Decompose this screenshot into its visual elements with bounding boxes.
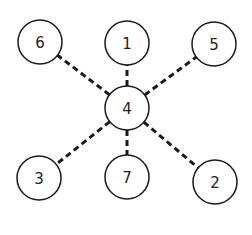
- node-2: 2: [193, 160, 237, 204]
- node-label: 6: [35, 34, 45, 52]
- graph-diagram: 1234567: [0, 0, 252, 235]
- node-3: 3: [17, 156, 61, 200]
- edge-4-6: [58, 55, 110, 94]
- edge-4-5: [145, 57, 197, 95]
- node-4: 4: [105, 86, 149, 130]
- node-label: 4: [122, 100, 132, 118]
- node-1: 1: [105, 21, 149, 65]
- node-7: 7: [105, 155, 149, 199]
- node-label: 3: [34, 170, 44, 188]
- edge-4-3: [56, 122, 110, 165]
- node-label: 1: [122, 35, 132, 53]
- node-6: 6: [18, 20, 62, 64]
- node-5: 5: [192, 22, 236, 66]
- node-label: 5: [209, 36, 219, 54]
- node-label: 7: [122, 169, 132, 187]
- nodes: 1234567: [17, 20, 237, 204]
- edge-4-2: [144, 122, 198, 168]
- node-label: 2: [210, 174, 220, 192]
